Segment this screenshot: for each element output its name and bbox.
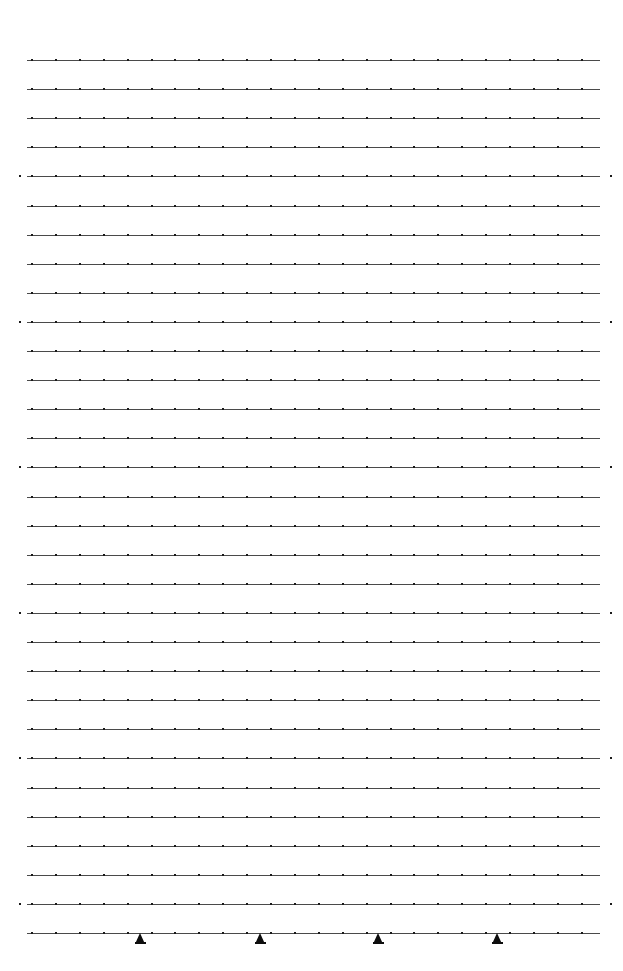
tick-dot	[390, 350, 392, 352]
tick-dot	[31, 350, 33, 352]
tick-dot	[461, 670, 463, 672]
tick-dot	[390, 728, 392, 730]
tick-dot	[485, 59, 487, 61]
tick-dot	[509, 612, 511, 614]
tick-dot	[79, 234, 81, 236]
tick-dot	[294, 554, 296, 556]
tick-dot	[79, 816, 81, 818]
tick-dot	[79, 379, 81, 381]
tick-dot	[413, 525, 415, 527]
rule-line	[27, 409, 600, 410]
tick-dot	[222, 117, 224, 119]
tick-dot	[79, 205, 81, 207]
tick-dot	[198, 466, 200, 468]
tick-dot	[533, 554, 535, 556]
tick-dot	[103, 350, 105, 352]
tick-dot	[294, 932, 296, 934]
rule-row	[0, 235, 623, 236]
tick-dot	[437, 525, 439, 527]
tick-dot	[557, 932, 559, 934]
tick-dot	[198, 321, 200, 323]
tick-dot	[533, 787, 535, 789]
edge-dot-right	[610, 612, 612, 614]
tick-dot	[557, 350, 559, 352]
tick-dot	[79, 59, 81, 61]
triangle-marker-1-icon	[135, 933, 145, 944]
tick-dot	[270, 88, 272, 90]
tick-dot	[461, 525, 463, 527]
tick-dot	[151, 205, 153, 207]
tick-dot	[222, 234, 224, 236]
tick-dot	[437, 554, 439, 556]
tick-dot	[509, 932, 511, 934]
tick-dot	[151, 263, 153, 265]
tick-dot	[413, 757, 415, 759]
tick-dot	[174, 59, 176, 61]
tick-dot	[198, 263, 200, 265]
tick-dot	[151, 292, 153, 294]
tick-dot	[461, 437, 463, 439]
tick-dot	[294, 350, 296, 352]
tick-dot	[198, 234, 200, 236]
tick-dot	[174, 117, 176, 119]
tick-dot	[461, 932, 463, 934]
tick-dot	[461, 146, 463, 148]
rule-row	[0, 89, 623, 90]
tick-dot	[246, 175, 248, 177]
tick-dot	[222, 496, 224, 498]
tick-dot	[55, 379, 57, 381]
tick-dot	[127, 408, 129, 410]
tick-dot	[437, 903, 439, 905]
tick-dot	[461, 263, 463, 265]
tick-dot	[151, 787, 153, 789]
tick-dot	[581, 146, 583, 148]
tick-dot	[318, 350, 320, 352]
edge-dot-left	[19, 612, 21, 614]
tick-dot	[318, 670, 320, 672]
tick-dot	[342, 845, 344, 847]
tick-dot	[151, 234, 153, 236]
tick-dot	[581, 117, 583, 119]
tick-dot	[174, 234, 176, 236]
tick-dot	[390, 88, 392, 90]
tick-dot	[413, 641, 415, 643]
tick-dot	[557, 641, 559, 643]
tick-dot	[557, 554, 559, 556]
tick-dot	[557, 146, 559, 148]
rule-line	[27, 758, 600, 759]
tick-dot	[342, 757, 344, 759]
tick-dot	[55, 757, 57, 759]
tick-dot	[390, 583, 392, 585]
tick-dot	[79, 496, 81, 498]
tick-dot	[55, 816, 57, 818]
tick-dot	[437, 408, 439, 410]
tick-dot	[413, 845, 415, 847]
tick-dot	[198, 699, 200, 701]
rule-line	[27, 438, 600, 439]
tick-dot	[55, 699, 57, 701]
tick-dot	[485, 670, 487, 672]
tick-dot	[485, 583, 487, 585]
tick-dot	[318, 408, 320, 410]
tick-dot	[198, 496, 200, 498]
tick-dot	[413, 146, 415, 148]
tick-dot	[79, 787, 81, 789]
tick-dot	[31, 699, 33, 701]
rule-line	[27, 555, 600, 556]
tick-dot	[581, 525, 583, 527]
tick-dot	[485, 234, 487, 236]
tick-dot	[270, 466, 272, 468]
tick-dot	[103, 117, 105, 119]
tick-dot	[485, 757, 487, 759]
tick-dot	[557, 496, 559, 498]
tick-dot	[461, 408, 463, 410]
tick-dot	[509, 408, 511, 410]
tick-dot	[366, 787, 368, 789]
tick-dot	[413, 903, 415, 905]
tick-dot	[246, 845, 248, 847]
tick-dot	[509, 437, 511, 439]
tick-dot	[294, 88, 296, 90]
tick-dot	[174, 699, 176, 701]
tick-dot	[174, 146, 176, 148]
tick-dot	[509, 641, 511, 643]
